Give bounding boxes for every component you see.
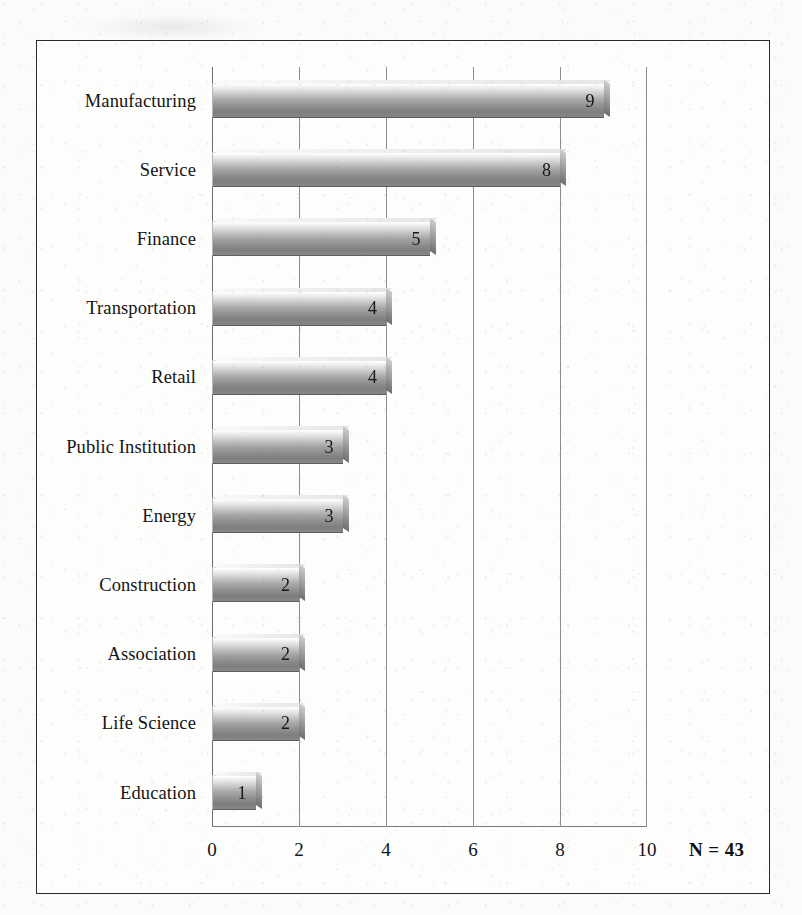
category-label-container: Transportation [37, 287, 204, 330]
bar: 2 [212, 567, 299, 602]
category-label-container: Energy [37, 494, 204, 537]
bar-value-label: 3 [325, 506, 334, 524]
bar-value-label: 1 [238, 783, 247, 801]
bar-row: Association2 [212, 633, 647, 676]
x-tick-label: 4 [381, 839, 391, 861]
category-label-container: Service [37, 148, 204, 191]
bar-value-label: 8 [542, 160, 551, 178]
category-label-container: Life Science [37, 702, 204, 745]
category-label-container: Public Institution [37, 425, 204, 468]
category-label-container: Manufacturing [37, 79, 204, 122]
bar: 3 [212, 498, 343, 533]
bar-row: Life Science2 [212, 702, 647, 745]
bar-value-label: 2 [281, 645, 290, 663]
category-label-container: Retail [37, 356, 204, 399]
bar-row: Service8 [212, 148, 647, 191]
bar-row: Finance5 [212, 217, 647, 260]
bar-row: Retail4 [212, 356, 647, 399]
x-tick-label: 2 [294, 839, 304, 861]
bar-value-label: 3 [325, 437, 334, 455]
x-tick-label: 0 [207, 839, 217, 861]
bar-row: Transportation4 [212, 287, 647, 330]
category-label: Education [120, 782, 196, 803]
bar-row: Manufacturing9 [212, 79, 647, 122]
bar-row: Public Institution3 [212, 425, 647, 468]
x-axis-ticks: 0246810 [212, 833, 647, 867]
plot-area: Manufacturing9Service8Finance5Transporta… [212, 67, 647, 827]
category-label: Retail [151, 367, 196, 388]
bar-value-label: 5 [412, 230, 421, 248]
bar-row: Education1 [212, 771, 647, 814]
x-tick-label: 8 [555, 839, 565, 861]
bar-value-label: 2 [281, 714, 290, 732]
category-label: Manufacturing [85, 90, 196, 111]
bar: 5 [212, 221, 430, 256]
chart-frame: Manufacturing9Service8Finance5Transporta… [36, 40, 770, 894]
bar: 3 [212, 429, 343, 464]
category-label: Transportation [86, 298, 196, 319]
category-label: Construction [99, 574, 196, 595]
category-label: Life Science [102, 713, 196, 734]
category-label: Public Institution [66, 436, 196, 457]
bar-value-label: 4 [368, 368, 377, 386]
bar-row: Energy3 [212, 494, 647, 537]
category-label-container: Finance [37, 217, 204, 260]
x-tick-label: 6 [468, 839, 478, 861]
bar: 1 [212, 775, 256, 810]
bar-value-label: 4 [368, 299, 377, 317]
bar: 2 [212, 706, 299, 741]
bar-value-label: 9 [586, 91, 595, 109]
category-label: Finance [137, 228, 196, 249]
scan-smudge [86, 14, 256, 40]
bar: 4 [212, 291, 386, 326]
category-label-container: Association [37, 633, 204, 676]
bar: 8 [212, 152, 560, 187]
sample-size-annotation: N = 43 [689, 839, 744, 861]
category-label-container: Education [37, 771, 204, 814]
bar: 9 [212, 83, 604, 118]
x-axis-line [212, 826, 647, 827]
bar-row: Construction2 [212, 563, 647, 606]
category-label: Service [140, 159, 196, 180]
bar-value-label: 2 [281, 576, 290, 594]
category-label: Association [108, 644, 196, 665]
x-tick-label: 10 [638, 839, 657, 861]
category-label: Energy [142, 505, 196, 526]
bar: 4 [212, 360, 386, 395]
category-label-container: Construction [37, 563, 204, 606]
bar: 2 [212, 637, 299, 672]
